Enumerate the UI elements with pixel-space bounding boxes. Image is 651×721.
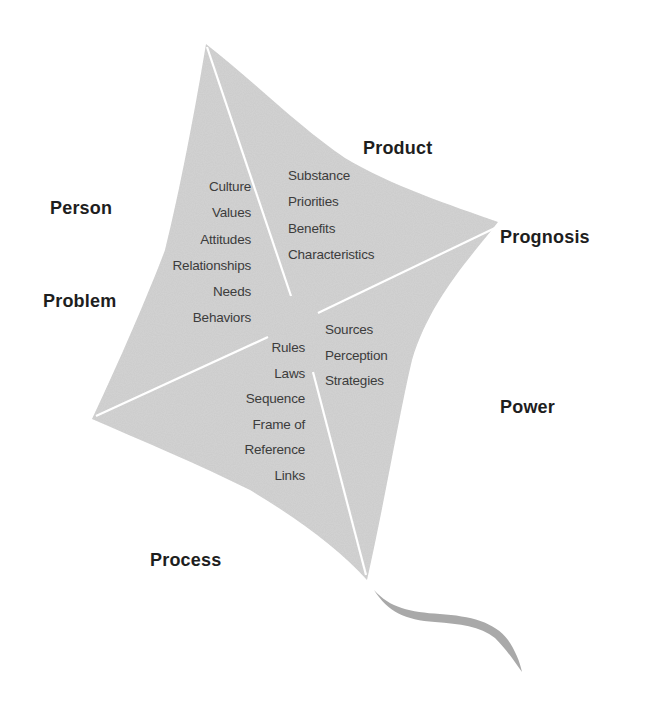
- list-item: Needs: [173, 279, 251, 305]
- label-product: Product: [363, 138, 432, 158]
- list-item: Strategies: [325, 368, 388, 394]
- list-item: Rules: [245, 335, 306, 361]
- label-problem: Problem: [43, 291, 116, 311]
- list-item: Attitudes: [173, 227, 251, 253]
- list-item: Relationships: [173, 253, 251, 279]
- list-item: Laws: [245, 361, 306, 387]
- list-item: Culture: [173, 174, 251, 200]
- list-item: Substance: [288, 163, 374, 189]
- list-item: Reference: [245, 437, 306, 463]
- label-person: Person: [50, 198, 112, 218]
- list-item: Links: [245, 463, 306, 489]
- kite-diagram: Product Person Prognosis Problem Power P…: [0, 0, 651, 721]
- label-power: Power: [500, 397, 555, 417]
- kite-tail: [374, 590, 522, 672]
- kite-body: [92, 44, 498, 580]
- list-item: Frame of: [245, 412, 306, 438]
- list-item: Priorities: [288, 189, 374, 215]
- list-item: Behaviors: [173, 305, 251, 331]
- list-item: Values: [173, 200, 251, 226]
- list-product-prognosis: Substance Priorities Benefits Characteri…: [288, 163, 374, 268]
- label-process: Process: [150, 550, 221, 570]
- list-item: Characteristics: [288, 242, 374, 268]
- list-item: Benefits: [288, 216, 374, 242]
- list-item: Sequence: [245, 386, 306, 412]
- list-item: Perception: [325, 343, 388, 369]
- list-process: Rules Laws Sequence Frame of Reference L…: [245, 335, 306, 488]
- list-power: Sources Perception Strategies: [325, 317, 388, 394]
- list-item: Sources: [325, 317, 388, 343]
- list-person-problem: Culture Values Attitudes Relationships N…: [173, 174, 251, 332]
- label-prognosis: Prognosis: [500, 227, 590, 247]
